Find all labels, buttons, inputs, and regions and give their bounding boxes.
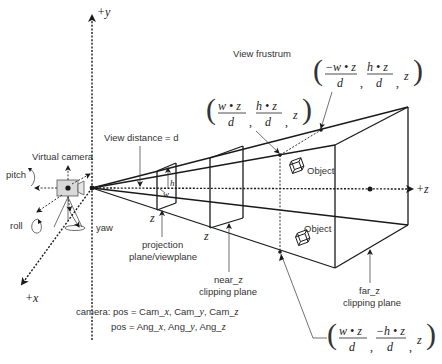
- coord-third: z: [403, 69, 409, 83]
- yaw-rotation-icon: [65, 226, 85, 231]
- coord-den1: d: [349, 340, 356, 354]
- yaw-label: yaw: [96, 222, 113, 233]
- coord-third: z: [416, 333, 422, 347]
- coord-num1: w • z: [339, 324, 362, 338]
- virtual-camera-label: Virtual camera: [32, 151, 94, 162]
- object-top-label: Object: [307, 165, 335, 176]
- z-axis-label: +z: [416, 182, 429, 196]
- svg-text:,: ,: [370, 340, 373, 354]
- projection-plane-label-line2: plane/viewplane: [129, 251, 197, 262]
- pitch-label: pitch: [6, 169, 26, 180]
- coordinate-bottom: ( w • z d , −h • z d , z ): [327, 317, 436, 354]
- coord-den2: d: [265, 115, 272, 129]
- pitch-rotation-icon: [30, 169, 35, 186]
- coord-num1: −w • z: [325, 60, 356, 74]
- camera-pos-line: camera: pos = Cam_x, Cam_y, Cam_z: [76, 306, 239, 317]
- near-plane-label-line2: clipping plane: [199, 286, 257, 297]
- view-distance-annotation: View distance = d: [104, 132, 179, 186]
- x-axis-label: +x: [25, 291, 39, 305]
- coord-num2: h • z: [367, 60, 388, 74]
- svg-text:(: (: [327, 317, 337, 351]
- w-label: w: [163, 189, 169, 199]
- coord-num2: −h • z: [376, 324, 405, 338]
- svg-text:,: ,: [409, 340, 412, 354]
- camera-lens: [78, 181, 84, 195]
- coordinate-top-far: ( −w • z d , h • z d , z ): [313, 53, 423, 90]
- cube-icon: [289, 158, 305, 174]
- svg-text:,: ,: [360, 76, 363, 90]
- object-bottom: Object: [295, 223, 332, 245]
- svg-text:,: ,: [285, 115, 288, 129]
- coord-den2: d: [387, 340, 394, 354]
- x-axis: +x: [22, 188, 92, 305]
- projection-z-label: z: [149, 211, 155, 225]
- coord-num2: h • z: [256, 99, 277, 113]
- svg-text:(: (: [313, 53, 323, 87]
- far-plane-label-line1: far_z: [359, 285, 380, 296]
- roll-label: roll: [10, 220, 23, 231]
- h-label: h: [170, 178, 175, 188]
- camera-position-text: camera: pos = Cam_x, Cam_y, Cam_z pos = …: [76, 306, 239, 332]
- coord-den1: d: [228, 115, 235, 129]
- y-axis-label: +y: [97, 5, 111, 19]
- projection-plane-label-line1: projection: [142, 239, 183, 250]
- svg-text:(: (: [206, 92, 216, 126]
- coord-den1: d: [337, 76, 344, 90]
- near-plane-label-line1: near_z: [214, 274, 243, 285]
- camera-angle-line: pos = Ang_x, Ang_y, Ang_z: [111, 321, 226, 332]
- coord-third: z: [292, 108, 298, 122]
- y-axis: +y: [92, 5, 111, 340]
- object-top: Object: [289, 158, 335, 176]
- svg-text:,: ,: [249, 115, 252, 129]
- coord-num1: w • z: [218, 99, 241, 113]
- coord-den2: d: [376, 76, 383, 90]
- svg-text:): ): [302, 92, 312, 126]
- view-frustum-diagram: View frustrum +y +x +z: [0, 0, 442, 364]
- z-axis-point: [368, 187, 373, 192]
- coordinate-top-near: ( w • z d , h • z d , z ): [206, 92, 312, 129]
- diagram-title: View frustrum: [233, 48, 291, 59]
- far-plane-label-line2: clipping plane: [343, 297, 401, 308]
- svg-text:): ): [426, 317, 436, 351]
- near-z-label: z: [203, 229, 209, 243]
- object-bottom-label: Object: [304, 223, 332, 234]
- projection-dimensions: h w: [160, 168, 175, 199]
- svg-text:,: ,: [396, 76, 399, 90]
- view-distance-label: View distance = d: [104, 132, 179, 143]
- svg-text:): ): [413, 53, 423, 87]
- virtual-camera: Virtual camera pitch roll yaw: [6, 151, 113, 233]
